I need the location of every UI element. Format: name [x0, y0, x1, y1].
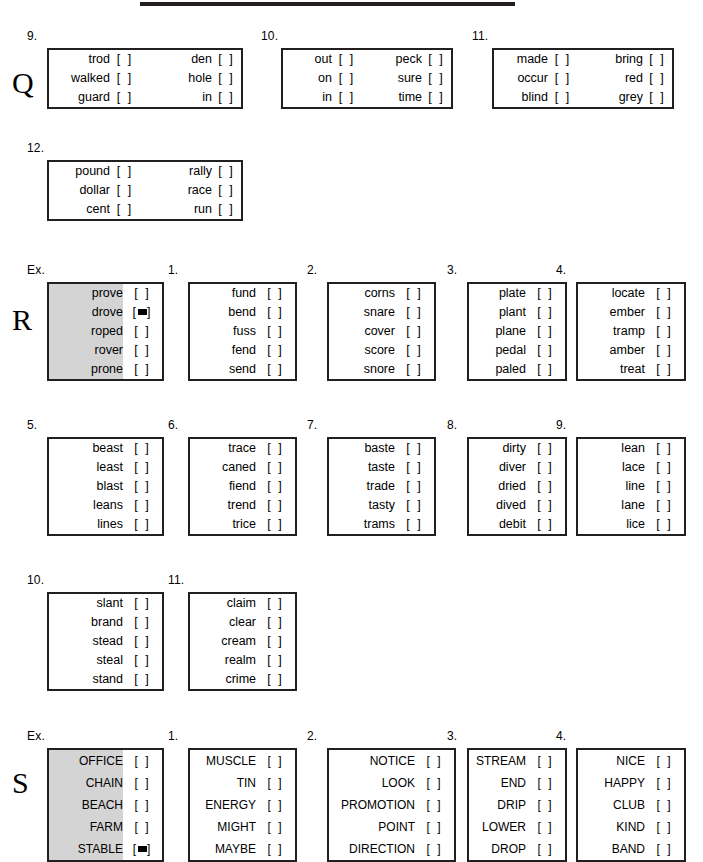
checkbox[interactable]: [ ]: [548, 69, 578, 88]
checkbox[interactable]: [ ]: [123, 593, 163, 613]
checkbox[interactable]: [ ]: [123, 477, 163, 496]
checkbox[interactable]: [ ]: [123, 360, 163, 380]
checkbox[interactable]: [ ]: [415, 838, 455, 861]
checkbox[interactable]: [ ]: [645, 749, 685, 772]
checkbox[interactable]: [ ]: [526, 838, 566, 861]
checkbox[interactable]: [ ]: [123, 816, 163, 838]
checkbox[interactable]: [ ]: [256, 772, 296, 794]
checkbox[interactable]: [ ]: [395, 303, 435, 322]
checkbox[interactable]: [ ]: [256, 477, 296, 496]
checkbox[interactable]: [ ]: [645, 794, 685, 816]
checkbox[interactable]: [ ]: [422, 49, 452, 69]
checkbox[interactable]: [ ]: [256, 816, 296, 838]
checkbox[interactable]: [ ]: [256, 360, 296, 380]
checkbox[interactable]: [ ]: [395, 322, 435, 341]
checkbox[interactable]: [ ]: [256, 515, 296, 535]
checkbox[interactable]: [ ]: [110, 88, 140, 108]
checkbox[interactable]: [ ]: [645, 438, 685, 458]
checkbox[interactable]: [ ]: [526, 341, 566, 360]
checkbox[interactable]: [ ]: [643, 88, 673, 108]
checkbox[interactable]: [ ]: [123, 515, 163, 535]
checkbox[interactable]: [ ]: [526, 749, 566, 772]
checkbox[interactable]: [ ]: [526, 772, 566, 794]
checkbox[interactable]: [ ]: [110, 49, 140, 69]
checkbox[interactable]: [ ]: [645, 772, 685, 794]
checkbox[interactable]: [ ]: [256, 341, 296, 360]
checkbox[interactable]: [ ]: [123, 341, 163, 360]
checkbox[interactable]: [ ]: [123, 613, 163, 632]
checkbox[interactable]: [ ]: [395, 496, 435, 515]
checkbox[interactable]: [ ]: [256, 593, 296, 613]
checkbox[interactable]: [ ]: [212, 69, 242, 88]
checkbox[interactable]: [ ]: [415, 794, 455, 816]
checkbox[interactable]: []: [123, 303, 163, 322]
checkbox[interactable]: [ ]: [256, 322, 296, 341]
checkbox[interactable]: [ ]: [256, 651, 296, 670]
checkbox[interactable]: [ ]: [415, 772, 455, 794]
checkbox[interactable]: [ ]: [110, 181, 140, 200]
checkbox[interactable]: [ ]: [256, 749, 296, 772]
checkbox[interactable]: [ ]: [645, 838, 685, 861]
checkbox[interactable]: [ ]: [123, 794, 163, 816]
checkbox[interactable]: [ ]: [526, 477, 566, 496]
checkbox[interactable]: [ ]: [212, 88, 242, 108]
checkbox[interactable]: [ ]: [526, 816, 566, 838]
checkbox[interactable]: [ ]: [212, 49, 242, 69]
checkbox[interactable]: [ ]: [526, 458, 566, 477]
checkbox[interactable]: [ ]: [256, 283, 296, 303]
checkbox[interactable]: [ ]: [123, 496, 163, 515]
checkbox[interactable]: [ ]: [415, 749, 455, 772]
checkbox[interactable]: [ ]: [395, 360, 435, 380]
checkbox[interactable]: [ ]: [645, 360, 685, 380]
checkbox[interactable]: [ ]: [526, 794, 566, 816]
checkbox[interactable]: [ ]: [395, 477, 435, 496]
checkbox[interactable]: [ ]: [526, 360, 566, 380]
checkbox[interactable]: [ ]: [256, 794, 296, 816]
checkbox[interactable]: [ ]: [645, 477, 685, 496]
checkbox[interactable]: [ ]: [548, 88, 578, 108]
checkbox[interactable]: [ ]: [395, 438, 435, 458]
checkbox[interactable]: [ ]: [256, 613, 296, 632]
checkbox[interactable]: [ ]: [526, 322, 566, 341]
checkbox[interactable]: [ ]: [332, 49, 362, 69]
checkbox[interactable]: [ ]: [526, 438, 566, 458]
checkbox[interactable]: [ ]: [256, 458, 296, 477]
checkbox[interactable]: [ ]: [123, 749, 163, 772]
checkbox[interactable]: [ ]: [123, 322, 163, 341]
checkbox[interactable]: [ ]: [643, 69, 673, 88]
checkbox[interactable]: [ ]: [645, 496, 685, 515]
checkbox[interactable]: [ ]: [123, 670, 163, 690]
checkbox[interactable]: [ ]: [645, 322, 685, 341]
checkbox[interactable]: [ ]: [415, 816, 455, 838]
checkbox[interactable]: [ ]: [110, 69, 140, 88]
checkbox[interactable]: [ ]: [395, 515, 435, 535]
checkbox[interactable]: [ ]: [526, 303, 566, 322]
checkbox[interactable]: [ ]: [645, 283, 685, 303]
checkbox[interactable]: [ ]: [645, 341, 685, 360]
checkbox[interactable]: [ ]: [645, 515, 685, 535]
checkbox[interactable]: [ ]: [645, 816, 685, 838]
checkbox[interactable]: [ ]: [422, 69, 452, 88]
checkbox[interactable]: [ ]: [256, 303, 296, 322]
checkbox[interactable]: [ ]: [395, 341, 435, 360]
checkbox[interactable]: [ ]: [123, 651, 163, 670]
checkbox[interactable]: [ ]: [526, 283, 566, 303]
checkbox[interactable]: [ ]: [332, 88, 362, 108]
checkbox[interactable]: [ ]: [526, 496, 566, 515]
checkbox[interactable]: [ ]: [123, 438, 163, 458]
checkbox[interactable]: [ ]: [256, 670, 296, 690]
checkbox[interactable]: []: [123, 838, 163, 861]
checkbox[interactable]: [ ]: [256, 838, 296, 861]
checkbox[interactable]: [ ]: [645, 458, 685, 477]
checkbox[interactable]: [ ]: [123, 632, 163, 651]
checkbox[interactable]: [ ]: [123, 772, 163, 794]
checkbox[interactable]: [ ]: [548, 49, 578, 69]
checkbox[interactable]: [ ]: [643, 49, 673, 69]
checkbox[interactable]: [ ]: [123, 458, 163, 477]
checkbox[interactable]: [ ]: [332, 69, 362, 88]
checkbox[interactable]: [ ]: [110, 161, 140, 181]
checkbox[interactable]: [ ]: [422, 88, 452, 108]
checkbox[interactable]: [ ]: [645, 303, 685, 322]
checkbox[interactable]: [ ]: [256, 632, 296, 651]
checkbox[interactable]: [ ]: [395, 283, 435, 303]
